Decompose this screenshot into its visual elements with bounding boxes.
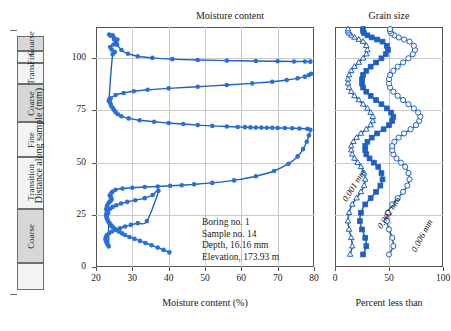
- figure-root: CoarseTransitionFineCoarseTrans.FineCoar…: [0, 0, 451, 331]
- moisture-tick-label: 60: [226, 273, 256, 283]
- grain-data-point: [375, 37, 380, 42]
- moisture-data-point: [275, 59, 280, 64]
- moisture-data-point: [232, 178, 237, 183]
- grain-data-point: [363, 235, 368, 240]
- moisture-data-point: [129, 223, 134, 228]
- grain-data-point: [392, 139, 397, 144]
- grain-data-point: [347, 251, 353, 256]
- moisture-data-point: [272, 169, 277, 174]
- grain-data-point: [391, 244, 396, 249]
- grain-tick-label: 0: [320, 273, 350, 283]
- moisture-tick-label: 50: [190, 273, 220, 283]
- moisture-data-point: [179, 183, 184, 188]
- grain-data-point: [395, 93, 400, 98]
- moisture-data-point: [150, 193, 155, 198]
- moisture-data-point: [225, 124, 230, 129]
- moisture-data-point: [195, 123, 200, 128]
- grain-data-point: [408, 127, 413, 132]
- moisture-data-point: [145, 219, 150, 224]
- core-extent-arrow-bottom: [10, 294, 17, 295]
- moisture-data-point: [297, 126, 302, 131]
- moisture-data-point: [155, 184, 160, 189]
- moisture-data-point: [259, 125, 264, 130]
- moisture-data-point: [156, 189, 161, 194]
- moisture-data-point: [295, 76, 300, 81]
- moisture-axis-title: Moisture content (%): [125, 297, 285, 308]
- grain-data-point: [346, 226, 352, 231]
- moisture-data-point: [195, 58, 200, 63]
- grain-data-point: [374, 60, 379, 65]
- moisture-data-point: [112, 37, 117, 42]
- grain-data-point: [345, 218, 351, 223]
- moisture-data-point: [181, 122, 186, 127]
- moisture-data-point: [130, 185, 135, 190]
- grain-data-point: [357, 219, 362, 224]
- grain-data-point: [359, 210, 364, 215]
- moisture-data-point: [121, 91, 126, 96]
- moisture-data-point: [301, 147, 306, 152]
- moisture-data-point: [283, 126, 288, 131]
- moisture-data-point: [166, 86, 171, 91]
- grain-data-point: [400, 60, 405, 65]
- moisture-data-point: [303, 74, 308, 79]
- moisture-data-point: [120, 186, 125, 191]
- moisture-data-point: [167, 250, 172, 255]
- grain-data-point: [403, 164, 408, 169]
- moisture-data-point: [210, 181, 215, 186]
- moisture-data-point: [270, 126, 275, 131]
- moisture-data-point: [161, 248, 166, 253]
- grain-data-point: [345, 26, 351, 31]
- grain-data-point: [400, 97, 405, 102]
- moisture-data-point: [250, 81, 255, 86]
- grain-tick-label: 50: [374, 273, 404, 283]
- moisture-data-point: [127, 235, 132, 240]
- moisture-data-point: [270, 79, 275, 84]
- annotation-line: Depth, 16.16 mm: [202, 240, 279, 252]
- moisture-data-point: [307, 133, 312, 138]
- grain-data-point: [350, 243, 356, 248]
- moisture-data-point: [152, 119, 157, 124]
- moisture-data-point: [166, 121, 171, 126]
- moisture-data-point: [118, 226, 123, 231]
- moisture-data-point: [119, 48, 124, 53]
- moisture-data-point: [133, 198, 138, 203]
- moisture-data-point: [290, 126, 295, 131]
- moisture-data-point: [113, 93, 118, 98]
- moisture-data-point: [110, 33, 115, 38]
- y-tick-label: 100: [60, 52, 86, 62]
- grain-data-point: [380, 39, 385, 44]
- moisture-tick-label: 20: [81, 273, 111, 283]
- grain-data-point: [381, 127, 386, 132]
- grain-data-point: [368, 64, 373, 69]
- moisture-data-point: [114, 203, 119, 208]
- moisture-data-point: [225, 58, 230, 63]
- moisture-data-point: [235, 125, 240, 130]
- grain-data-point: [375, 131, 380, 136]
- grain-data-point: [402, 131, 407, 136]
- moisture-data-point: [135, 54, 140, 59]
- y-tick-label: 50: [60, 157, 86, 167]
- grain-data-point: [398, 160, 403, 165]
- moisture-data-point: [123, 224, 128, 229]
- moisture-data-point: [155, 245, 160, 250]
- grain-tick-label: 100: [428, 273, 451, 283]
- moisture-data-point: [308, 59, 313, 64]
- grain-data-point: [406, 102, 411, 107]
- moisture-data-point: [131, 89, 136, 94]
- grain-data-point: [406, 170, 411, 175]
- moisture-data-point: [126, 51, 131, 56]
- grain-data-point: [361, 27, 366, 32]
- moisture-data-point: [192, 182, 197, 187]
- moisture-data-point: [170, 57, 175, 62]
- grain-data-point: [361, 252, 366, 257]
- grain-data-point: [379, 102, 384, 107]
- grain-data-point: [406, 56, 411, 61]
- moisture-tick-label: 30: [117, 273, 147, 283]
- moisture-data-point: [149, 243, 154, 248]
- y-tick-label: 75: [60, 104, 86, 114]
- moisture-data-point: [143, 241, 148, 246]
- moisture-data-point: [142, 185, 147, 190]
- grain-data-point: [374, 98, 379, 103]
- moisture-data-point: [275, 126, 280, 131]
- moisture-data-point: [195, 84, 200, 89]
